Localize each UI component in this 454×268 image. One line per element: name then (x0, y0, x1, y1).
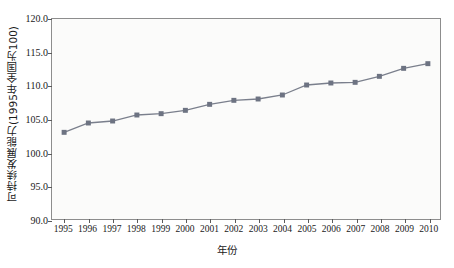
y-axis-tick (48, 187, 52, 188)
x-axis-tick-labels: 1995199619971998199920002001200220032004… (51, 224, 441, 240)
x-tick-label: 2001 (200, 224, 219, 234)
x-axis-tick (357, 219, 358, 223)
data-point-marker (183, 108, 188, 113)
x-tick-label: 2004 (273, 224, 292, 234)
data-point-marker (231, 98, 236, 103)
x-axis-title: 年份 (0, 242, 454, 257)
x-axis-tick (259, 219, 260, 223)
data-point-marker (377, 74, 382, 79)
x-axis-tick (381, 219, 382, 223)
data-point-marker (256, 97, 261, 102)
series-path (64, 64, 428, 133)
x-tick-label: 1996 (78, 224, 97, 234)
chart-container: 可持续发展能力(1995年全国为100) 90.095.0100.0105.01… (0, 0, 454, 268)
x-tick-label: 2002 (224, 224, 243, 234)
y-axis-tick (48, 120, 52, 121)
x-tick-label: 2000 (176, 224, 195, 234)
x-tick-label: 1998 (127, 224, 146, 234)
y-tick-label: 110.0 (26, 80, 48, 91)
x-axis-tick (284, 219, 285, 223)
data-point-marker (62, 130, 67, 135)
data-point-marker (86, 121, 91, 126)
y-axis-tick (48, 221, 52, 222)
x-tick-label: 2010 (419, 224, 438, 234)
y-tick-label: 105.0 (26, 114, 49, 125)
data-point-marker (425, 61, 430, 66)
y-tick-label: 100.0 (26, 147, 49, 158)
x-axis-tick (137, 219, 138, 223)
data-point-marker (304, 83, 309, 88)
x-axis-tick (162, 219, 163, 223)
y-tick-label: 120.0 (26, 13, 49, 24)
y-axis-tick (48, 53, 52, 54)
data-point-marker (401, 66, 406, 71)
x-axis-tick (64, 219, 65, 223)
x-axis-tick (405, 219, 406, 223)
data-point-marker (328, 81, 333, 86)
data-point-marker (353, 80, 358, 85)
data-point-marker (280, 93, 285, 98)
x-axis-tick (186, 219, 187, 223)
x-tick-label: 1999 (151, 224, 170, 234)
x-tick-label: 1995 (54, 224, 73, 234)
x-axis-tick (235, 219, 236, 223)
x-axis-tick (430, 219, 431, 223)
data-point-marker (134, 113, 139, 118)
x-tick-label: 2005 (297, 224, 316, 234)
x-axis-tick (89, 219, 90, 223)
x-tick-label: 2009 (395, 224, 414, 234)
plot-inner (52, 19, 440, 219)
y-tick-label: 95.0 (31, 181, 49, 192)
x-tick-label: 2006 (322, 224, 341, 234)
x-tick-label: 2008 (371, 224, 390, 234)
x-axis-tick (113, 219, 114, 223)
x-axis-tick (332, 219, 333, 223)
data-point-marker (110, 119, 115, 124)
y-axis-tick (48, 154, 52, 155)
y-axis-tick (48, 86, 52, 87)
plot-area (51, 18, 441, 220)
x-axis-tick (210, 219, 211, 223)
y-tick-label: 90.0 (31, 215, 49, 226)
y-axis-tick-labels: 90.095.0100.0105.0110.0115.0120.0 (18, 12, 48, 220)
x-axis-tick (308, 219, 309, 223)
data-point-marker (207, 102, 212, 107)
y-tick-label: 115.0 (26, 46, 48, 57)
y-axis-tick (48, 19, 52, 20)
data-point-marker (159, 111, 164, 116)
series-line (52, 19, 440, 219)
x-tick-label: 2007 (346, 224, 365, 234)
x-tick-label: 2003 (249, 224, 268, 234)
x-tick-label: 1997 (102, 224, 121, 234)
